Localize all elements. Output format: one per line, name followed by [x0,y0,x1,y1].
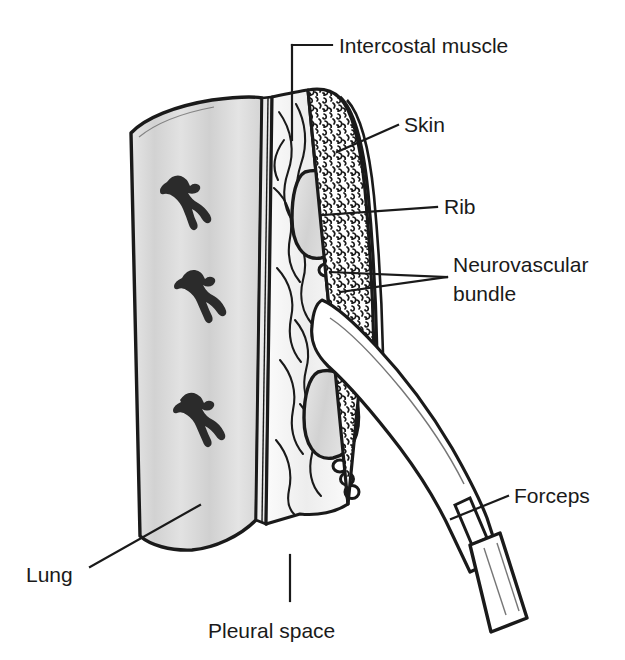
anatomy-illustration: Intercostal muscle Skin Rib Neurovascula… [0,0,625,660]
label-forceps: Forceps [514,484,590,507]
lung-body [131,97,262,550]
label-rib: Rib [444,195,476,218]
label-skin: Skin [404,113,445,136]
label-pleural-space: Pleural space [208,619,335,642]
label-neurovascular-bundle-line2: bundle [453,282,516,305]
lung-structure [131,97,262,550]
label-lung: Lung [26,563,73,586]
label-neurovascular-bundle-line1: Neurovascular [453,253,588,276]
label-intercostal-muscle: Intercostal muscle [339,34,508,57]
